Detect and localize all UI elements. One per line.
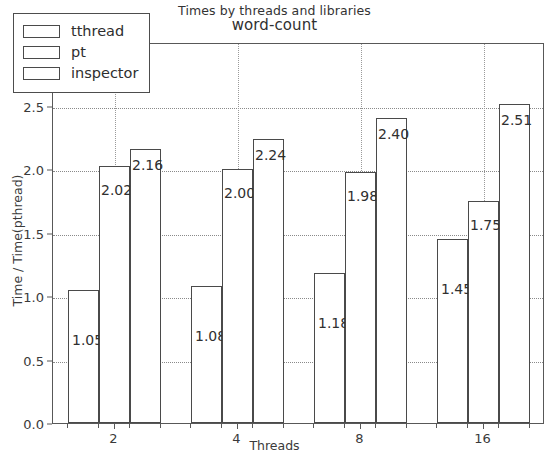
bar-inspector-16: [499, 104, 530, 423]
x-tick-mark: [483, 424, 484, 429]
x-tick-mark: [360, 424, 361, 429]
x-minor-tick-mark: [67, 424, 68, 428]
legend-label: tthread: [71, 24, 124, 39]
bar-pt-2: [99, 166, 130, 423]
bar-pt-4: [222, 169, 253, 423]
x-minor-tick-mark: [406, 424, 407, 428]
y-tick-label: 0.0: [23, 417, 44, 432]
chart-legend: tthreadptinspector: [13, 13, 150, 93]
legend-label: inspector: [71, 66, 138, 81]
bar-inspector-8: [376, 118, 407, 423]
legend-swatch-icon: [23, 46, 60, 59]
x-minor-tick-mark: [344, 424, 345, 428]
bar-tthread-8: [314, 273, 345, 423]
bar-value-label: 2.40: [378, 126, 409, 142]
y-axis-title: Time / Time(pthread): [10, 121, 25, 361]
x-minor-tick-mark: [98, 424, 99, 428]
y-axis: Time / Time(pthread) 0.00.51.01.52.02.53…: [0, 43, 52, 424]
x-minor-tick-mark: [190, 424, 191, 428]
bar-value-label: 2.24: [255, 147, 286, 163]
x-minor-tick-mark: [436, 424, 437, 428]
bar-value-label: 2.51: [501, 112, 532, 128]
bar-inspector-2: [130, 149, 161, 423]
legend-label: pt: [71, 45, 86, 60]
chart-figure: Times by threads and libraries word-coun…: [0, 0, 549, 458]
legend-item-inspector: inspector: [23, 63, 138, 84]
x-tick-mark: [237, 424, 238, 429]
bar-tthread-2: [68, 290, 99, 423]
y-tick-label: 1.0: [23, 290, 44, 305]
plot-area: 1.052.022.161.082.002.241.181.982.401.45…: [52, 43, 544, 424]
x-tick-mark: [114, 424, 115, 429]
legend-item-pt: pt: [23, 42, 138, 63]
bar-tthread-16: [437, 239, 468, 423]
y-tick-label: 1.5: [23, 226, 44, 241]
bar-value-label: 2.02: [101, 182, 132, 198]
x-minor-tick-mark: [467, 424, 468, 428]
bar-value-label: 2.00: [224, 185, 255, 201]
bar-pt-8: [345, 172, 376, 423]
bar-tthread-4: [191, 286, 222, 423]
bar-value-label: 1.75: [470, 217, 501, 233]
legend-swatch-icon: [23, 67, 60, 80]
bar-pt-16: [468, 201, 499, 423]
x-minor-tick-mark: [498, 424, 499, 428]
x-axis-title: Threads: [0, 438, 549, 453]
y-tick-label: 2.5: [23, 99, 44, 114]
x-minor-tick-mark: [375, 424, 376, 428]
y-tick-label: 0.5: [23, 353, 44, 368]
x-minor-tick-mark: [252, 424, 253, 428]
x-minor-tick-mark: [283, 424, 284, 428]
x-minor-tick-mark: [313, 424, 314, 428]
bar-value-label: 1.98: [347, 188, 378, 204]
x-minor-tick-mark: [221, 424, 222, 428]
legend-item-tthread: tthread: [23, 21, 138, 42]
y-tick-label: 2.0: [23, 163, 44, 178]
bar-value-label: 2.16: [132, 157, 163, 173]
x-minor-tick-mark: [529, 424, 530, 428]
x-minor-tick-mark: [160, 424, 161, 428]
x-minor-tick-mark: [129, 424, 130, 428]
bar-inspector-4: [253, 139, 284, 423]
y-gridline: [53, 108, 543, 109]
legend-swatch-icon: [23, 25, 60, 38]
